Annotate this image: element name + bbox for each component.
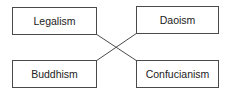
node-confucianism: Confucianism (136, 60, 219, 88)
node-buddhism: Buddhism (12, 60, 97, 88)
node-label: Confucianism (146, 68, 210, 80)
node-label: Daoism (160, 14, 196, 26)
node-daoism: Daoism (136, 6, 219, 34)
node-legalism: Legalism (12, 7, 97, 35)
node-label: Legalism (33, 15, 75, 27)
node-label: Buddhism (31, 68, 78, 80)
matching-diagram: Legalism Daoism Buddhism Confucianism (0, 0, 226, 94)
